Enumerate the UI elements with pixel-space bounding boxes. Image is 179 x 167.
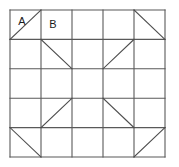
diagonal-d-r3c3 <box>103 98 134 127</box>
diagonal-d-r4c4 <box>134 128 165 157</box>
grid-diagram: AB <box>0 0 179 167</box>
grid-diagonal-lines <box>10 10 165 157</box>
diagonal-d-r0c4 <box>134 10 165 39</box>
figure-container: AB <box>0 0 179 167</box>
cell-label-a: A <box>18 15 26 27</box>
cell-label-b: B <box>49 18 56 30</box>
diagonal-d-r1c1 <box>41 39 72 68</box>
grid-vertical-lines <box>10 10 165 157</box>
diagonal-d-r3c1 <box>41 98 72 127</box>
diagonal-d-r4c0 <box>10 128 41 157</box>
grid-cell-labels: AB <box>18 15 56 30</box>
diagonal-d-r1c3 <box>103 39 134 68</box>
grid-horizontal-lines <box>10 10 165 157</box>
